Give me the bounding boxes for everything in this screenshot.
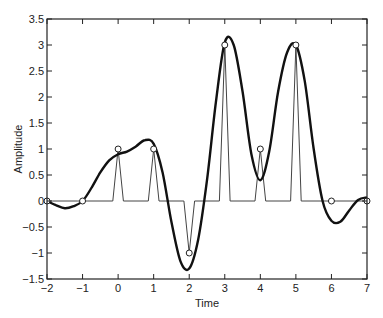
y-tick-label: 0 [38, 195, 44, 207]
x-axis-label: Time [195, 297, 219, 309]
sample-marker [186, 250, 192, 256]
y-tick-label: 1.5 [29, 117, 44, 129]
sample-marker [293, 42, 299, 48]
chart: −2−101234567 −1.5−1−0.500.511.522.533.5 … [0, 0, 383, 318]
sample-marker [257, 146, 263, 152]
sample-marker [328, 198, 334, 204]
x-tick-label: 6 [328, 282, 334, 294]
y-axis-label: Amplitude [12, 125, 24, 174]
x-tick-label: 5 [293, 282, 299, 294]
x-tick-label: 7 [364, 282, 370, 294]
sample-marker [80, 198, 86, 204]
y-tick-label: 0.5 [29, 169, 44, 181]
x-tick-label: −1 [76, 282, 89, 294]
y-tick-label: −1 [31, 247, 44, 259]
x-tick-label: 2 [186, 282, 192, 294]
interpolated-signal-line [47, 37, 367, 270]
sample-marker [115, 146, 121, 152]
y-axis-ticks: −1.5−1−0.500.511.522.533.5 [22, 13, 367, 285]
x-tick-label: 4 [257, 282, 263, 294]
plot-area [44, 37, 370, 270]
y-tick-label: 3.5 [29, 13, 44, 25]
y-tick-label: 2.5 [29, 65, 44, 77]
sample-marker [151, 146, 157, 152]
axes-box [47, 19, 367, 279]
pulse-train-line [47, 45, 367, 253]
x-tick-label: 1 [151, 282, 157, 294]
x-axis-ticks: −2−101234567 [41, 19, 370, 294]
y-tick-label: −0.5 [22, 221, 44, 233]
y-tick-label: −1.5 [22, 273, 44, 285]
x-tick-label: 0 [115, 282, 121, 294]
y-tick-label: 2 [38, 91, 44, 103]
y-tick-label: 1 [38, 143, 44, 155]
y-tick-label: 3 [38, 39, 44, 51]
axes-frame [47, 19, 367, 279]
sample-marker [222, 42, 228, 48]
x-tick-label: 3 [222, 282, 228, 294]
